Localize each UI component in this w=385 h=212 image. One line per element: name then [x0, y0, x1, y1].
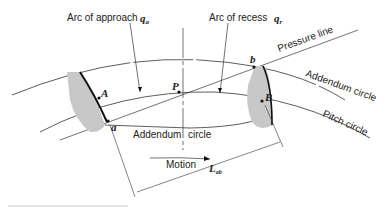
label-P: P — [172, 80, 179, 92]
approach-pointer — [130, 23, 140, 92]
arc-of-recess-label: Arc of recess — [209, 12, 267, 23]
point-B — [260, 99, 263, 102]
recess-pointer — [220, 23, 228, 93]
point-a — [106, 119, 109, 122]
arrowhead — [204, 156, 210, 161]
pitch-circle-label: Pitch circle — [321, 108, 370, 138]
circle-label-bottom: circle — [188, 129, 212, 140]
lab-extension-a — [110, 125, 135, 197]
arc-of-approach-label: Arc of approach — [67, 12, 138, 23]
pressure-line — [60, 30, 358, 140]
label-B: B — [264, 91, 272, 103]
arrowhead — [138, 87, 142, 92]
point-b — [252, 65, 255, 68]
label-A: A — [100, 87, 108, 99]
motion-label: Motion — [166, 159, 196, 170]
gear-contact-diagram: Arc of approach qa Arc of recess qr Pres… — [0, 0, 385, 212]
label-b: b — [250, 53, 256, 65]
recess-symbol: qr — [274, 12, 283, 26]
approach-symbol: qa — [140, 12, 150, 26]
label-a: a — [111, 121, 117, 133]
addendum-circle-lower — [105, 118, 262, 128]
figure-caption — [8, 205, 128, 207]
lab-label: Lab — [208, 162, 222, 175]
addendum-label-bottom: Addendum — [133, 129, 181, 140]
